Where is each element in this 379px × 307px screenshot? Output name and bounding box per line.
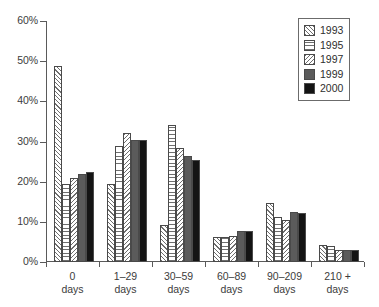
bar-2000-group-3 [192,160,200,262]
bar-1999-group-2 [131,140,139,263]
y-tick-label: 40% [2,95,38,106]
legend-label-1993: 1993 [320,25,343,36]
x-label-line1: 30–59 [164,270,193,282]
bar-group [46,21,99,262]
legend-label-1995: 1995 [320,40,343,51]
bar-1999-group-6 [343,250,351,262]
legend-item-1995: 1995 [304,38,343,52]
bar-1995-group-2 [115,146,123,262]
bar-1999-group-1 [78,174,86,262]
legend-swatch-2000 [304,83,315,94]
x-label-group-1: 0days [46,270,99,296]
x-label-line2: days [46,283,99,296]
legend-item-1993: 1993 [304,24,343,38]
legend-swatch-1993 [304,25,315,36]
y-tick-label: 50% [2,55,38,66]
x-label-group-6: 210 +days [311,270,364,296]
x-label-line2: days [258,283,311,296]
bar-1995-group-5 [274,217,282,262]
x-label-line2: days [205,283,258,296]
legend-swatch-1997 [304,54,315,65]
bar-2000-group-5 [298,213,306,262]
legend-label-1999: 1999 [320,69,343,80]
x-label-group-2: 1–29days [99,270,152,296]
x-label-line1: 90–209 [267,270,302,282]
bar-1993-group-3 [160,225,168,262]
x-label-line1: 210 + [324,270,351,282]
x-label-line2: days [152,283,205,296]
x-tick [99,262,100,267]
bar-group [205,21,258,262]
bar-1997-group-3 [176,148,184,262]
legend-swatch-1995 [304,40,315,51]
x-tick [46,262,47,267]
bar-1993-group-1 [54,66,62,262]
y-tick-label: 20% [2,176,38,187]
legend-item-1999: 1999 [304,67,343,81]
x-label-line1: 1–29 [114,270,137,282]
bar-1993-group-6 [319,245,327,262]
x-label-line2: days [311,283,364,296]
bar-1993-group-5 [266,203,274,262]
bar-2000-group-1 [86,172,94,262]
bar-2000-group-2 [139,140,147,262]
bar-1993-group-4 [213,237,221,262]
legend-item-2000: 2000 [304,82,343,96]
x-label-group-5: 90–209days [258,270,311,296]
bar-1995-group-4 [221,237,229,262]
x-label-line2: days [99,283,152,296]
bar-1997-group-1 [70,178,78,262]
bar-1995-group-3 [168,125,176,262]
y-tick-label: 0% [2,256,38,267]
x-label-group-3: 30–59days [152,270,205,296]
bar-1997-group-6 [335,250,343,262]
bar-1995-group-1 [62,184,70,262]
chart-legend: 19931995199719992000 [298,18,350,101]
bar-1993-group-2 [107,184,115,262]
x-tick [205,262,206,267]
bar-2000-group-6 [351,250,359,262]
x-label-line1: 60–89 [217,270,246,282]
bar-1997-group-2 [123,133,131,262]
legend-item-1997: 1997 [304,53,343,67]
y-tick-label: 10% [2,216,38,227]
bar-1997-group-4 [229,236,237,263]
x-label-group-4: 60–89days [205,270,258,296]
bar-1999-group-3 [184,156,192,262]
bar-chart: 0%10%20%30%40%50%60% 0days1–29days30–59d… [0,0,379,307]
x-label-line1: 0 [70,270,76,282]
bar-1999-group-5 [290,212,298,262]
legend-label-1997: 1997 [320,54,343,65]
bar-group [152,21,205,262]
bar-1995-group-6 [327,246,335,262]
x-tick [258,262,259,267]
legend-swatch-1999 [304,69,315,80]
legend-label-2000: 2000 [320,83,343,94]
x-tick [152,262,153,267]
y-tick-label: 30% [2,136,38,147]
x-tick [364,262,365,267]
bar-2000-group-4 [245,231,253,262]
bar-1997-group-5 [282,220,290,262]
bar-group [99,21,152,262]
y-tick-label: 60% [2,15,38,26]
bar-1999-group-4 [237,231,245,262]
x-tick [311,262,312,267]
